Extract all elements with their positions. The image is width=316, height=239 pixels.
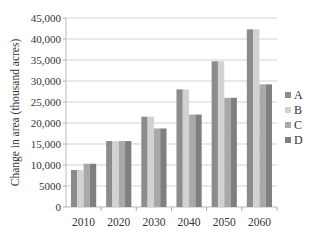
legend-label-a: A bbox=[294, 88, 303, 102]
bar-b-2020 bbox=[112, 141, 118, 207]
bar-b-2060 bbox=[253, 29, 259, 207]
bar-a-2020 bbox=[106, 141, 112, 207]
x-tick-label: 2020 bbox=[107, 216, 130, 228]
bar-a-2040 bbox=[176, 89, 182, 207]
legend: ABCD bbox=[285, 88, 303, 147]
bar-a-2030 bbox=[141, 117, 147, 207]
x-tick-label: 2040 bbox=[178, 216, 201, 228]
bar-d-2030 bbox=[160, 128, 166, 207]
bar-a-2050 bbox=[212, 61, 218, 207]
y-tick-label: 15,000 bbox=[31, 138, 62, 150]
y-tick-label: 30,000 bbox=[31, 75, 62, 87]
bar-c-2040 bbox=[189, 115, 195, 207]
bar-b-2030 bbox=[148, 117, 154, 207]
x-tick-label: 2010 bbox=[72, 216, 95, 228]
legend-swatch-b bbox=[285, 107, 291, 113]
bar-chart: 0500010,00015,00020,00025,00030,00035,00… bbox=[0, 0, 316, 239]
legend-label-b: B bbox=[294, 103, 302, 117]
bar-b-2010 bbox=[77, 170, 83, 207]
x-tick-label: 2050 bbox=[213, 216, 236, 228]
legend-swatch-c bbox=[285, 122, 291, 128]
y-tick-label: 25,000 bbox=[31, 96, 62, 108]
chart-canvas: 0500010,00015,00020,00025,00030,00035,00… bbox=[0, 0, 316, 239]
bar-d-2010 bbox=[90, 164, 96, 207]
bar-b-2050 bbox=[218, 61, 224, 207]
legend-swatch-d bbox=[285, 137, 291, 143]
x-tick-label: 2030 bbox=[142, 216, 165, 228]
bar-d-2050 bbox=[231, 98, 237, 207]
y-tick-label: 0 bbox=[56, 201, 62, 213]
legend-label-c: C bbox=[294, 118, 302, 132]
bar-d-2060 bbox=[266, 84, 272, 207]
y-axis-label: Change in area (thousand acres) bbox=[9, 39, 22, 187]
y-tick-label: 10,000 bbox=[31, 159, 62, 171]
bar-a-2010 bbox=[71, 170, 77, 207]
bar-b-2040 bbox=[183, 89, 189, 207]
bar-d-2020 bbox=[125, 141, 131, 207]
bar-c-2020 bbox=[119, 141, 125, 207]
bar-d-2040 bbox=[195, 115, 201, 207]
y-tick-label: 45,000 bbox=[31, 12, 62, 24]
bar-c-2060 bbox=[259, 84, 265, 207]
bar-c-2030 bbox=[154, 128, 160, 207]
legend-label-d: D bbox=[294, 133, 303, 147]
bar-c-2010 bbox=[84, 164, 90, 207]
bar-a-2060 bbox=[247, 29, 253, 207]
y-tick-label: 5000 bbox=[39, 180, 62, 192]
y-tick-label: 20,000 bbox=[31, 117, 62, 129]
y-tick-label: 40,000 bbox=[31, 33, 62, 45]
x-tick-label: 2060 bbox=[248, 216, 271, 228]
bar-c-2050 bbox=[224, 98, 230, 207]
y-tick-label: 35,000 bbox=[31, 54, 62, 66]
legend-swatch-a bbox=[285, 92, 291, 98]
